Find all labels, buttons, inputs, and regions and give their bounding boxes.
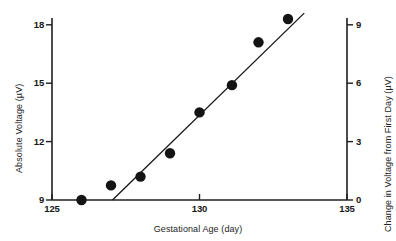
data-point-4 bbox=[165, 148, 175, 158]
x-tick-label-130: 130 bbox=[184, 203, 216, 214]
chart-figure: 9121518 0369 125130135 Absolute Voltage … bbox=[0, 0, 396, 241]
right-tick-label-3: 3 bbox=[356, 136, 361, 147]
data-point-7 bbox=[253, 37, 263, 47]
x-tick-label-135: 135 bbox=[331, 203, 363, 214]
y-axis-right-title: Change in Voltage from First Day (µV) bbox=[383, 76, 393, 232]
left-axis-ticks bbox=[46, 25, 52, 200]
right-tick-label-9: 9 bbox=[356, 19, 361, 30]
x-axis-ticks bbox=[52, 194, 347, 200]
data-point-1 bbox=[76, 195, 86, 205]
data-point-8 bbox=[283, 14, 293, 24]
right-tick-label-6: 6 bbox=[356, 77, 361, 88]
data-point-6 bbox=[227, 80, 237, 90]
left-tick-label-18: 18 bbox=[20, 19, 44, 30]
data-point-markers bbox=[76, 14, 293, 205]
data-point-3 bbox=[135, 171, 145, 181]
y-axis-left-title: Absolute Voltage (µV) bbox=[14, 84, 24, 173]
x-axis-title: Gestational Age (day) bbox=[0, 224, 396, 234]
x-tick-label-125: 125 bbox=[36, 203, 68, 214]
data-point-5 bbox=[194, 107, 204, 117]
right-axis-ticks bbox=[347, 25, 353, 200]
data-point-2 bbox=[106, 180, 116, 190]
